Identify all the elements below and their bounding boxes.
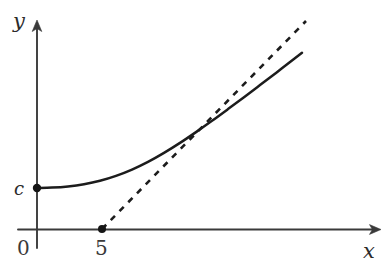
y-intercept-label: c <box>14 180 24 198</box>
solid-curve-path <box>37 53 302 188</box>
y-axis <box>32 20 42 248</box>
graph-svg <box>0 0 384 267</box>
y-axis-label: y <box>13 11 25 32</box>
asymptote-x-intercept-dot <box>98 225 106 233</box>
x-axis <box>18 225 381 235</box>
figure-canvas: y x c 0 5 <box>0 0 384 267</box>
x-axis-label: x <box>363 241 375 262</box>
x-intercept-tick-label: 5 <box>95 238 108 258</box>
origin-label: 0 <box>17 238 30 258</box>
y-intercept-dot <box>33 184 41 192</box>
